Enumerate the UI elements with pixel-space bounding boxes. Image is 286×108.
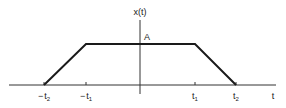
tick-label-t1: t1	[192, 91, 199, 102]
amplitude-label: A	[144, 32, 150, 42]
diagram-svg: x(t) A t −t2 −t1 t1 t2	[0, 0, 286, 108]
tick-label-minus-t2: −t2	[38, 91, 51, 102]
y-axis-label: x(t)	[134, 7, 147, 17]
trapezoidal-pulse-diagram: x(t) A t −t2 −t1 t1 t2	[0, 0, 286, 108]
tick-label-minus-t1: −t1	[80, 91, 93, 102]
x-axis-label: t	[272, 91, 275, 101]
tick-label-t2: t2	[233, 91, 240, 102]
